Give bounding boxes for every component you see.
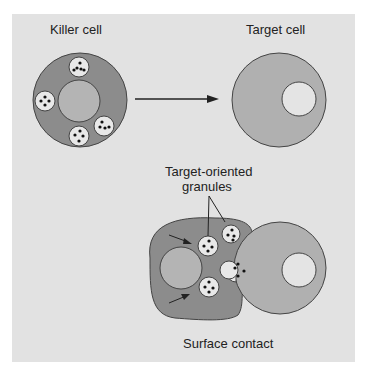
granule (35, 91, 55, 111)
label-granules-line1: Target-oriented (165, 164, 252, 179)
killer-cell (33, 53, 127, 147)
granule (69, 57, 89, 77)
granule (222, 225, 240, 243)
label-target-cell: Target cell (246, 22, 305, 37)
granule (69, 126, 89, 146)
granule (199, 277, 219, 297)
label-surface-contact: Surface contact (183, 336, 273, 351)
label-granules-line2: granules (182, 179, 232, 194)
contact-figure (150, 196, 326, 320)
arrow (135, 95, 219, 103)
granule (94, 116, 114, 136)
granule (198, 236, 218, 256)
target-cell (232, 53, 326, 147)
label-killer-cell: Killer cell (50, 22, 102, 37)
